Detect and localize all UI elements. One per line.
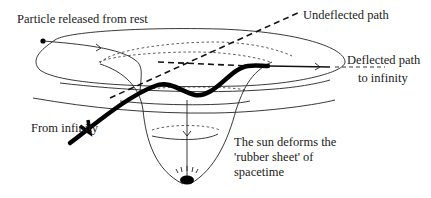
outer-sheet-ellipse	[36, 29, 345, 87]
diagram-canvas	[0, 0, 431, 198]
funnel-left-wall	[100, 64, 183, 184]
label-undeflected-path: Undeflected path	[303, 8, 389, 22]
sheet-front-curve	[33, 98, 335, 113]
dotted-ring-4	[152, 126, 220, 131]
label-to-infinity: to infinity	[358, 71, 408, 85]
deflected-thin-continuation	[268, 66, 330, 67]
label-particle-released: Particle released from rest	[17, 12, 148, 26]
label-sun-line2: 'rubber sheet' of	[234, 150, 313, 164]
label-from-infinity: From infinity	[31, 121, 98, 135]
horizon-dashed-line	[158, 62, 250, 66]
dotted-ring-2	[99, 52, 270, 62]
funnel-ring-3	[152, 134, 218, 140]
dotted-ring-3	[143, 87, 245, 90]
funnel-ring-2	[120, 101, 250, 105]
label-sun-line3: spacetime	[234, 165, 284, 179]
label-sun-line1: The sun deforms the	[234, 135, 336, 149]
sun-mass	[180, 176, 194, 185]
label-deflected-path: Deflected path	[347, 53, 420, 67]
released-particle-path	[43, 41, 141, 95]
spacetime-diagram: Particle released from rest Undeflected …	[0, 0, 431, 198]
